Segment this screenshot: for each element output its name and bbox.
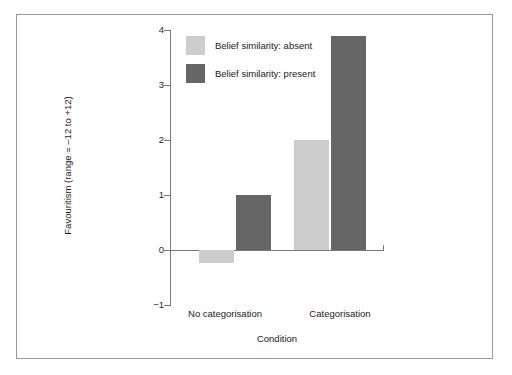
y-tick-label-1: 1 [138,190,164,200]
y-tick-label-4-wrap: 4 [132,25,164,35]
y-tick-label-1-wrap: 1 [132,190,164,200]
legend-row-absent: Belief similarity: absent [186,36,346,58]
bar-categorisation-absent [294,140,329,250]
legend-swatch-absent [186,36,205,55]
y-tick-label-3-wrap: 3 [132,80,164,90]
figure: 4 3 2 1 0 −1 No categorisation Categori [0,0,512,375]
y-tick-mark-neg1 [164,305,170,306]
y-tick-mark-1 [164,195,170,196]
y-tick-label-0: 0 [138,245,164,255]
x-axis-title: Condition [170,333,384,344]
y-tick-label-4: 4 [138,25,164,35]
y-tick-label-2: 2 [138,135,164,145]
y-axis-line [170,30,171,306]
y-tick-label-0-wrap: 0 [132,245,164,255]
y-tick-label-2-wrap: 2 [132,135,164,145]
legend-label-absent: Belief similarity: absent [215,40,312,51]
y-tick-label-neg1-wrap: −1 [132,300,164,310]
y-axis-title: Favouritism (range = ‒12 to +12) [62,66,73,266]
x-category-label-no-categorisation: No categorisation [170,308,280,319]
bar-no-categorisation-absent [199,250,234,263]
x-axis-end-tick [383,245,384,251]
legend: Belief similarity: absent Belief similar… [186,36,346,92]
bar-no-categorisation-present [236,195,271,250]
y-tick-mark-2 [164,140,170,141]
legend-label-present: Belief similarity: present [215,68,315,79]
y-tick-mark-4 [164,30,170,31]
y-tick-mark-0 [164,250,170,251]
legend-row-present: Belief similarity: present [186,64,346,86]
y-tick-mark-3 [164,85,170,86]
y-tick-label-neg1: −1 [138,300,164,310]
y-tick-label-3: 3 [138,80,164,90]
legend-swatch-present [186,64,205,83]
plot-area: 4 3 2 1 0 −1 No categorisation Categori [0,0,512,375]
x-category-label-categorisation: Categorisation [290,308,390,319]
